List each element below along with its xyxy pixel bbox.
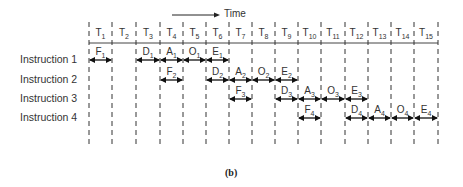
time-slot-label: T4 <box>160 27 183 40</box>
stage-label: A4 <box>368 104 391 117</box>
stage-label: A2 <box>229 66 252 79</box>
time-slot-label: T8 <box>252 27 275 40</box>
time-slot-label: T5 <box>183 27 206 40</box>
time-slot-label: T1 <box>89 27 112 40</box>
stage-label: D3 <box>275 85 298 98</box>
instruction-label: Instruction 2 <box>20 73 77 85</box>
stage-label: F4 <box>298 104 321 117</box>
stage-label: O1 <box>183 46 206 59</box>
stage-label: O3 <box>321 85 345 98</box>
stage-label: O2 <box>252 66 275 79</box>
stage-label: F3 <box>229 85 252 98</box>
time-slot-label: T9 <box>275 27 298 40</box>
stage-label: D1 <box>136 46 160 59</box>
stage-label: O4 <box>391 104 414 117</box>
stage-label: A3 <box>298 85 321 98</box>
time-slot-label: T13 <box>368 27 391 40</box>
stage-label: D2 <box>206 66 229 79</box>
instruction-label: Instruction 1 <box>20 53 77 65</box>
time-slot-label: T12 <box>345 27 368 40</box>
time-slot-label: T2 <box>113 27 136 40</box>
time-slot-label: T7 <box>229 27 252 40</box>
stage-label: E1 <box>206 46 229 59</box>
stage-label: E2 <box>275 66 298 79</box>
time-arrow-icon <box>172 13 220 18</box>
stage-label: E3 <box>345 85 368 98</box>
slot-boundaries <box>89 22 438 148</box>
time-slot-label: T15 <box>415 27 438 40</box>
stage-label: A1 <box>160 46 183 59</box>
instruction-label: Instruction 3 <box>20 92 77 104</box>
figure-caption: (b) <box>225 167 237 178</box>
time-slot-label: T11 <box>322 27 345 40</box>
time-label: Time <box>224 8 246 19</box>
stage-label: D4 <box>345 104 368 117</box>
time-slot-label: T14 <box>391 27 414 40</box>
stage-label: F2 <box>160 66 183 79</box>
stage-label: F1 <box>89 46 112 59</box>
pipeline-timing-diagram: Time T1T2T3T4T5T6T7T8T9T10T11T12T13T14T1… <box>0 0 463 187</box>
time-slot-label: T10 <box>298 27 321 40</box>
stage-label: E4 <box>414 104 438 117</box>
time-slot-label: T3 <box>137 27 160 40</box>
instruction-label: Instruction 4 <box>20 111 77 123</box>
time-slot-label: T6 <box>206 27 229 40</box>
